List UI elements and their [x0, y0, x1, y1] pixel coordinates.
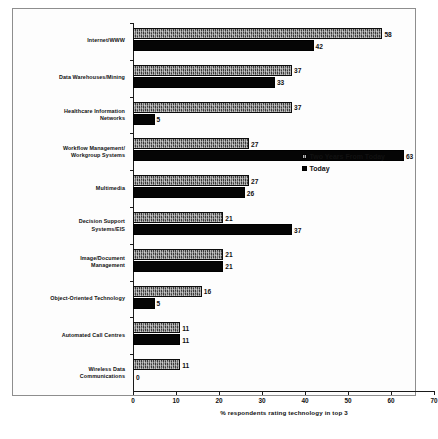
legend-swatch-icon [302, 166, 307, 171]
chart-category-row: Decision SupportSystems/EIS2137 [133, 207, 434, 244]
category-label: Internet/WWW [13, 38, 125, 45]
chart-bar: 21 [133, 212, 223, 223]
category-label: Image/DocumentManagement [13, 255, 125, 269]
chart-bar: 27 [133, 175, 249, 186]
chart-bar: 11 [133, 334, 180, 345]
category-label: Data Warehouses/Mining [13, 75, 125, 82]
bar-value-label: 5 [157, 300, 161, 307]
bar-value-label: 27 [251, 177, 258, 184]
legend-item: Today [302, 163, 385, 173]
bar-value-label: 16 [204, 288, 211, 295]
chart-frame: Internet/WWW5842Data Warehouses/Mining37… [12, 8, 416, 396]
chart-bar: 42 [133, 40, 314, 51]
category-label: Object-Oriented Technology [13, 295, 125, 302]
y-axis-tick [130, 207, 133, 208]
chart-legend: Two Years From TodayToday [302, 151, 385, 175]
bar-value-label: 37 [294, 104, 301, 111]
chart-bar: 27 [133, 138, 249, 149]
x-axis-tick [348, 391, 349, 395]
legend-label: Today [310, 165, 330, 172]
category-label: Healthcare InformationNetworks [13, 108, 125, 122]
bar-value-label: 42 [316, 42, 323, 49]
y-axis-tick [130, 60, 133, 61]
x-axis-tick [219, 391, 220, 395]
category-label: Wireless DataCommunications [13, 365, 125, 379]
x-axis-tick-label: 40 [301, 397, 308, 404]
x-axis-tick-label: 50 [344, 397, 351, 404]
chart-bar: 21 [133, 261, 223, 272]
legend-swatch-icon [302, 154, 307, 159]
bar-value-label: 5 [157, 116, 161, 123]
y-axis-tick [130, 354, 133, 355]
bar-value-label: 21 [225, 263, 232, 270]
chart-category-row: Multimedia2726 [133, 170, 434, 207]
x-axis-tick-label: 70 [430, 397, 437, 404]
legend-label: Two Years From Today [310, 153, 385, 160]
chart-category-row: Internet/WWW5842 [133, 23, 434, 60]
x-axis-tick-label: 60 [387, 397, 394, 404]
bar-value-label: 11 [182, 361, 189, 368]
bar-value-label: 27 [251, 140, 258, 147]
chart-bar: 5 [133, 114, 155, 125]
chart-bar: 37 [133, 102, 292, 113]
x-axis-title: % respondents rating technology in top 3 [133, 409, 435, 416]
category-label: Multimedia [13, 185, 125, 192]
category-label: Workflow Management/Workgroup Systems [13, 145, 125, 159]
x-axis-tick [262, 391, 263, 395]
bar-value-label: 21 [225, 214, 232, 221]
bar-value-label: 11 [182, 324, 189, 331]
chart-category-row: Object-Oriented Technology165 [133, 281, 434, 318]
chart-bar: 11 [133, 322, 180, 333]
chart-category-row: Healthcare InformationNetworks375 [133, 97, 434, 134]
chart-bar: 37 [133, 65, 292, 76]
chart-category-row: Automated Call Centres1111 [133, 317, 434, 354]
category-label: Automated Call Centres [13, 332, 125, 339]
x-axis-tick-label: 30 [258, 397, 265, 404]
chart-bar: 26 [133, 187, 245, 198]
y-axis-tick [130, 23, 133, 24]
plot-area: Internet/WWW5842Data Warehouses/Mining37… [133, 23, 434, 391]
chart-category-row: Wireless DataCommunications110 [133, 354, 434, 391]
y-axis-tick [130, 244, 133, 245]
chart-category-row: Image/DocumentManagement2121 [133, 244, 434, 281]
bar-value-label: 26 [247, 189, 254, 196]
bar-value-label: 63 [406, 152, 413, 159]
chart-bar: 33 [133, 77, 275, 88]
chart-bar: 37 [133, 224, 292, 235]
bar-value-label: 33 [277, 79, 284, 86]
y-axis-tick [130, 133, 133, 134]
x-axis-tick-label: 10 [172, 397, 179, 404]
chart-bar: 16 [133, 286, 202, 297]
x-axis-tick [176, 391, 177, 395]
x-axis-tick-label: 0 [131, 397, 135, 404]
y-axis-tick [130, 170, 133, 171]
x-axis-tick [434, 391, 435, 395]
chart-bar: 58 [133, 28, 382, 39]
x-axis-line [133, 391, 435, 392]
chart-bar: 5 [133, 298, 155, 309]
y-axis-tick [130, 317, 133, 318]
y-axis-tick [130, 97, 133, 98]
bar-value-label: 0 [136, 373, 140, 380]
chart-bar: 21 [133, 249, 223, 260]
x-axis-tick-label: 20 [215, 397, 222, 404]
bar-value-label: 11 [182, 336, 189, 343]
bar-value-label: 21 [225, 251, 232, 258]
chart-category-row: Data Warehouses/Mining3733 [133, 60, 434, 97]
category-label: Decision SupportSystems/EIS [13, 218, 125, 232]
x-axis-tick [133, 391, 134, 395]
bar-value-label: 37 [294, 226, 301, 233]
chart-bar: 11 [133, 359, 180, 370]
x-axis-tick [305, 391, 306, 395]
y-axis-tick [130, 281, 133, 282]
legend-item: Two Years From Today [302, 151, 385, 161]
x-axis-tick [391, 391, 392, 395]
bar-value-label: 58 [384, 30, 391, 37]
bar-value-label: 37 [294, 67, 301, 74]
chart-category-row: Workflow Management/Workgroup Systems276… [133, 133, 434, 170]
